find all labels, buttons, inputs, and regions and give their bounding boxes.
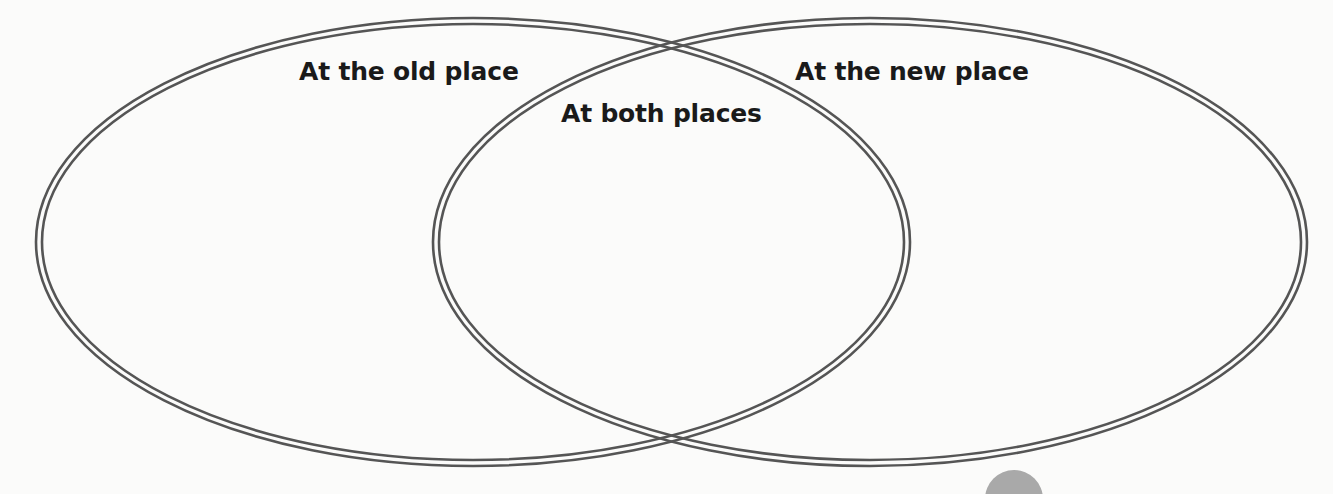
- set-label-old-place: At the old place: [299, 57, 519, 86]
- set-label-new-place: At the new place: [795, 57, 1029, 86]
- venn-diagram: At the old place At the new place At bot…: [0, 0, 1333, 494]
- intersection-label: At both places: [561, 99, 762, 128]
- venn-circles: [0, 0, 1333, 494]
